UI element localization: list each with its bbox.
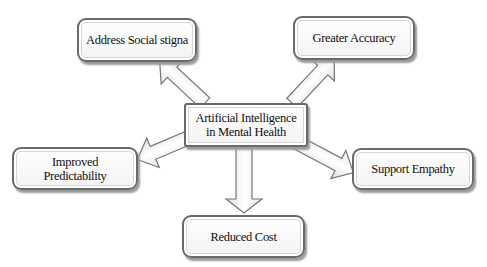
node-label-line1: Improved <box>52 155 98 169</box>
node-greater-accuracy: Greater Accuracy <box>293 16 415 60</box>
center-node-ai-mental-health: Artificial Intelligence in Mental Health <box>184 103 308 147</box>
center-label-line1: Artificial Intelligence <box>195 111 296 125</box>
node-reduced-cost: Reduced Cost <box>182 215 305 258</box>
node-label: Address Social stigna <box>86 33 188 47</box>
node-improved-predictability: Improved Predictability <box>12 147 138 190</box>
node-label-line2: Predictability <box>43 169 106 183</box>
node-label: Support Empathy <box>371 162 454 176</box>
center-label-line2: in Mental Health <box>206 125 286 139</box>
arrow-to-cost <box>226 147 262 213</box>
node-support-empathy: Support Empathy <box>352 148 474 190</box>
node-label: Reduced Cost <box>210 230 276 244</box>
node-label: Greater Accuracy <box>313 31 396 45</box>
node-address-social-stigma: Address Social stigna <box>77 18 197 62</box>
